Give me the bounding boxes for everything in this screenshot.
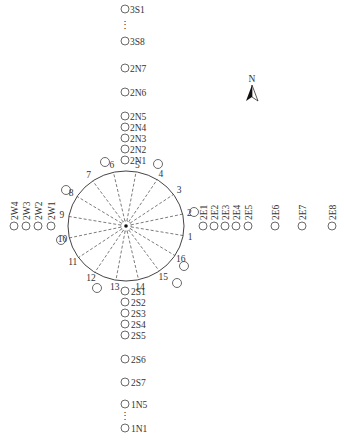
sensor-label: 2E6 <box>271 204 281 220</box>
sensor-label: 2N6 <box>130 88 147 98</box>
sensor-label: 2S3 <box>131 309 146 319</box>
sensor-point <box>221 222 229 230</box>
sensor-label: 2E4 <box>232 204 242 220</box>
sensor-label: 3S8 <box>130 37 145 47</box>
sensor-point <box>121 298 129 306</box>
sensor-point <box>22 222 30 230</box>
east-row: 2E12E22E32E42E52E62E72E8 <box>199 204 338 230</box>
sensor-label: 2E1 <box>199 204 209 220</box>
ring-number: 9 <box>60 210 65 220</box>
ring-sensor-point <box>154 160 163 169</box>
sensor-label: 2W1 <box>47 201 57 220</box>
radial-line <box>113 172 124 221</box>
sensor-point <box>121 424 129 432</box>
radial-line <box>93 181 123 222</box>
sensor-point <box>199 222 207 230</box>
radial-line <box>129 230 159 271</box>
sensor-label: 2W4 <box>10 201 20 220</box>
sensor-label: 2S1 <box>131 287 146 297</box>
sensor-label: 2E3 <box>221 204 231 220</box>
sensor-label: 2S5 <box>131 331 146 341</box>
sensor-point <box>244 222 252 230</box>
sensor-point <box>271 222 279 230</box>
sensor-point <box>121 37 129 45</box>
sensor-layout-diagram: N 12345678910111213141516 3S13S82N72N62N… <box>0 0 344 441</box>
sensor-label: 2N2 <box>130 145 147 155</box>
sensor-point <box>121 5 129 13</box>
ring-sensor-point <box>93 284 102 293</box>
sensor-point <box>121 123 129 131</box>
sensor-label: 1N1 <box>131 424 148 434</box>
sensor-ring: 12345678910111213141516 <box>58 160 193 292</box>
sensor-point <box>121 134 129 142</box>
radial-line <box>78 229 121 258</box>
sensor-point <box>121 156 129 164</box>
ring-number: 12 <box>86 273 96 283</box>
sensor-label: 2S6 <box>131 355 146 365</box>
sensor-point <box>121 400 129 408</box>
ring-number: 13 <box>110 282 120 292</box>
ellipsis: ⋮ <box>120 20 130 30</box>
sensor-point <box>121 378 129 386</box>
radial-line <box>116 231 125 280</box>
radial-line <box>129 180 157 222</box>
sensor-point <box>47 222 55 230</box>
sensor-point <box>121 331 129 339</box>
ring-number: 1 <box>188 232 193 242</box>
sensor-label: 2S4 <box>131 320 146 330</box>
north-arrow-icon: N <box>246 74 258 101</box>
radial-line <box>69 227 121 238</box>
sensor-label: 2E5 <box>244 204 254 220</box>
radial-line <box>131 227 183 236</box>
radial-line <box>95 230 123 272</box>
sensor-label: 2W3 <box>22 201 32 220</box>
sensor-label: 2N3 <box>130 134 147 144</box>
sensor-label: 2S2 <box>131 298 146 308</box>
sensor-label: 2N1 <box>130 156 147 166</box>
sensor-label: 2E8 <box>328 204 338 220</box>
sensor-point <box>121 287 129 295</box>
ring-number: 15 <box>159 272 169 282</box>
ring-number: 4 <box>159 169 164 179</box>
sensor-point <box>121 355 129 363</box>
ring-points <box>57 158 199 293</box>
ring-number: 7 <box>86 170 91 180</box>
sensor-point <box>232 222 240 230</box>
sensor-label: 3S1 <box>130 5 145 15</box>
sensor-point <box>121 112 129 120</box>
south-column: 2S12S22S32S42S52S62S71N51N1⋮ <box>120 287 148 434</box>
sensor-point <box>328 222 336 230</box>
sensor-point <box>298 222 306 230</box>
sensor-point <box>121 320 129 328</box>
west-row: 2W42W32W22W1 <box>10 201 57 230</box>
sensor-point <box>121 309 129 317</box>
sensor-point <box>210 222 218 230</box>
ring-sensor-point <box>173 279 182 288</box>
sensor-point <box>121 145 129 153</box>
ring-number: 6 <box>110 160 115 170</box>
sensor-point <box>121 88 129 96</box>
radial-line <box>130 194 173 223</box>
sensor-point <box>121 64 129 72</box>
radial-line <box>69 216 121 225</box>
sensor-point <box>10 222 18 230</box>
radial-line <box>131 214 183 225</box>
radial-line <box>127 231 138 280</box>
sensor-label: 2E7 <box>298 204 308 220</box>
north-label: N <box>249 74 256 84</box>
sensor-label: 2S7 <box>131 378 146 388</box>
sensor-label: 2E2 <box>210 204 220 220</box>
sensor-label: 2W2 <box>34 201 44 220</box>
ring-sensor-point <box>101 158 110 167</box>
sensor-label: 2N4 <box>130 123 147 133</box>
center-point <box>124 224 128 228</box>
radial-line <box>127 172 136 221</box>
ring-number: 11 <box>68 257 77 267</box>
sensor-point <box>34 222 42 230</box>
ellipsis: ⋮ <box>120 411 130 421</box>
north-column: 3S13S82N72N62N52N42N32N22N1⋮ <box>120 5 147 166</box>
sensor-label: 2N5 <box>130 112 147 122</box>
ring-number: 3 <box>177 185 182 195</box>
sensor-label: 2N7 <box>130 64 147 74</box>
sensor-label: 1N5 <box>131 400 148 410</box>
